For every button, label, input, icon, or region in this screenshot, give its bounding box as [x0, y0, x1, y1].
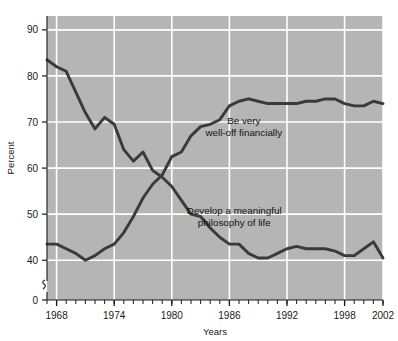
line-chart: 0405060708090 19681974198019861992199820… [0, 0, 398, 341]
y-tick-label-90: 90 [27, 24, 39, 35]
y-tick-label-50: 50 [27, 209, 39, 220]
y-tick-label-40: 40 [27, 255, 39, 266]
x-tick-label-1998: 1998 [333, 310, 356, 321]
annotation-philosophy-line2: philosophy of life [198, 217, 272, 228]
y-tick-label-0: 0 [32, 295, 38, 306]
annotation-philosophy-line1: Develop a meaningful [187, 205, 282, 216]
chart-figure: 0405060708090 19681974198019861992199820… [0, 0, 398, 341]
y-axis-title: Percent [5, 141, 16, 174]
x-tick-label-1992: 1992 [276, 310, 299, 321]
y-tick-label-60: 60 [27, 163, 39, 174]
x-tick-label-2002: 2002 [372, 310, 395, 321]
x-tick-label-1968: 1968 [45, 310, 68, 321]
x-tick-label-1980: 1980 [161, 310, 184, 321]
annotation-well-off-line2: well-off financially [204, 127, 282, 138]
annotation-philosophy: Develop a meaningfulphilosophy of life [187, 205, 282, 228]
plot-area-background [47, 16, 383, 300]
x-tick-label-1986: 1986 [218, 310, 241, 321]
y-tick-label-70: 70 [27, 117, 39, 128]
annotation-well-off-line1: Be very [227, 115, 260, 126]
x-tick-label-1974: 1974 [103, 310, 126, 321]
y-tick-label-80: 80 [27, 71, 39, 82]
x-axis-title: Years [203, 326, 227, 337]
